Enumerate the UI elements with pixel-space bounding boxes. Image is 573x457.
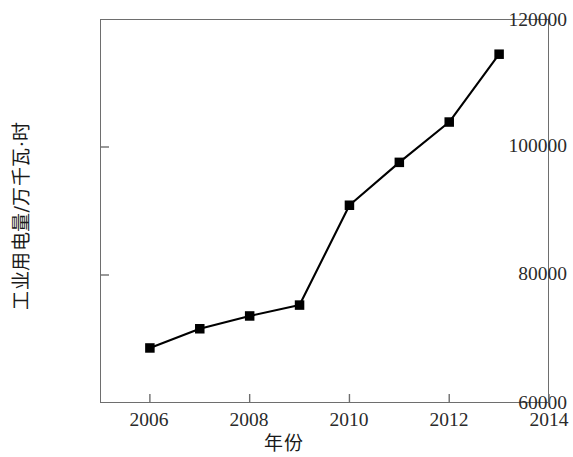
y-axis-title-text: 工业用电量/万千瓦·时 [6, 121, 33, 310]
y-tick-label-100000: 100000 [477, 136, 567, 156]
y-tick-label-120000: 120000 [477, 10, 567, 30]
y-axis-title: 工业用电量/万千瓦·时 [2, 0, 36, 430]
x-tick-label-2006: 2006 [109, 410, 189, 430]
x-tick-label-2012: 2012 [409, 410, 489, 430]
x-tick-label-2014: 2014 [509, 410, 573, 430]
plot-area [100, 19, 549, 403]
x-tick-label-2010: 2010 [309, 410, 389, 430]
x-tick-label-2008: 2008 [209, 410, 289, 430]
y-tick-label-80000: 80000 [477, 264, 567, 284]
x-axis-title: 年份 [0, 428, 567, 455]
